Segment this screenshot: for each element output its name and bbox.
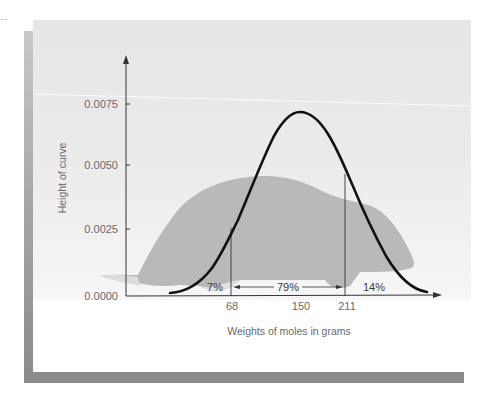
pct-middle: 79% [277, 281, 299, 293]
y-axis-arrow-icon [123, 55, 129, 64]
y-tick-0.0025: 0.0025 [84, 223, 118, 235]
y-tick-0.0050: 0.0050 [84, 159, 118, 171]
x-axis-arrow-icon [433, 292, 442, 298]
y-tick-0.0000: 0.0000 [84, 290, 118, 302]
mole-silhouette-icon [100, 176, 414, 291]
x-tick-150: 150 [292, 300, 310, 312]
x-axis-title: Weights of moles in grams [227, 325, 351, 337]
pct-right: 14% [363, 281, 385, 293]
arrow-left-icon [233, 285, 240, 289]
y-axis-title: Height of curve [56, 143, 68, 214]
y-tick-0.0075: 0.0075 [84, 98, 118, 110]
x-tick-68: 68 [226, 300, 238, 312]
pct-left: 7% [207, 281, 223, 293]
x-tick-211: 211 [338, 300, 356, 312]
normal-curve-chart: 0.0075 0.0050 0.0025 0.0000 Height of cu… [0, 0, 495, 402]
y-axis [123, 55, 130, 296]
